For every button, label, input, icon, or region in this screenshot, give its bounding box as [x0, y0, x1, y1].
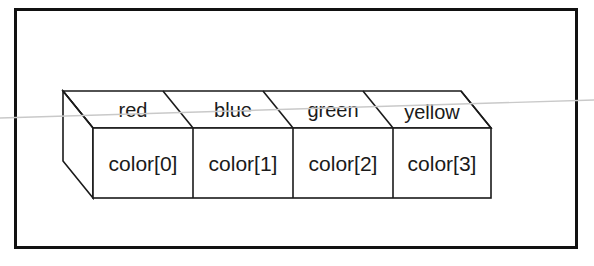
front-label-cell-1: color[1] [209, 152, 278, 175]
top-label-cell-0: red [119, 99, 148, 121]
front-label-cell-0: color[0] [109, 152, 178, 175]
front-label-cell-2: color[2] [309, 152, 378, 175]
top-label-cell-2: green [307, 99, 358, 121]
array-diagram-svg: red blue green yellow color[0] color[1] … [0, 0, 594, 266]
figure-canvas: red blue green yellow color[0] color[1] … [0, 0, 594, 266]
front-label-cell-3: color[3] [408, 152, 477, 175]
